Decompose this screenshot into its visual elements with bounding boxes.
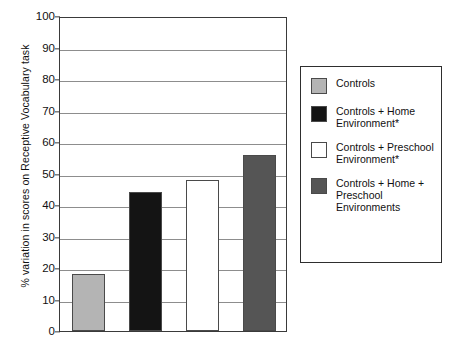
gridline-60 xyxy=(60,144,286,145)
y-tick-label-10: 10 xyxy=(21,295,55,307)
y-tick-label-40: 40 xyxy=(21,200,55,212)
legend-swatch-2 xyxy=(311,142,327,158)
bar-1 xyxy=(129,192,162,331)
legend-swatch-3 xyxy=(311,178,327,194)
legend-label-2: Controls + Preschool Environment* xyxy=(336,141,440,166)
bar-3 xyxy=(243,155,276,331)
legend-item-3: Controls + Home + Preschool Environments xyxy=(311,177,441,214)
legend-label-1: Controls + Home Environment* xyxy=(336,105,440,130)
y-tick-label-70: 70 xyxy=(21,106,55,118)
gridline-80 xyxy=(60,81,286,82)
plot-area xyxy=(59,17,287,332)
legend: ControlsControls + Home Environment*Cont… xyxy=(300,66,442,263)
legend-item-2: Controls + Preschool Environment* xyxy=(311,141,441,166)
gridline-70 xyxy=(60,113,286,114)
y-tick-label-80: 80 xyxy=(21,74,55,86)
y-tick-label-20: 20 xyxy=(21,263,55,275)
y-tick-label-100: 100 xyxy=(21,11,55,23)
bar-2 xyxy=(186,180,219,331)
legend-swatch-0 xyxy=(311,78,327,94)
legend-label-3: Controls + Home + Preschool Environments xyxy=(336,177,440,214)
y-tick-label-30: 30 xyxy=(21,232,55,244)
gridline-90 xyxy=(60,50,286,51)
legend-swatch-1 xyxy=(311,106,327,122)
y-axis-ticks: 0102030405060708090100 xyxy=(17,17,55,332)
y-tick-label-0: 0 xyxy=(21,326,55,338)
legend-label-0: Controls xyxy=(336,77,375,89)
legend-item-1: Controls + Home Environment* xyxy=(311,105,441,130)
y-tick-label-90: 90 xyxy=(21,43,55,55)
y-tick-label-50: 50 xyxy=(21,169,55,181)
y-tick-label-60: 60 xyxy=(21,137,55,149)
figure-caption-partial xyxy=(18,352,178,361)
legend-item-0: Controls xyxy=(311,77,441,94)
bar-0 xyxy=(72,274,105,331)
